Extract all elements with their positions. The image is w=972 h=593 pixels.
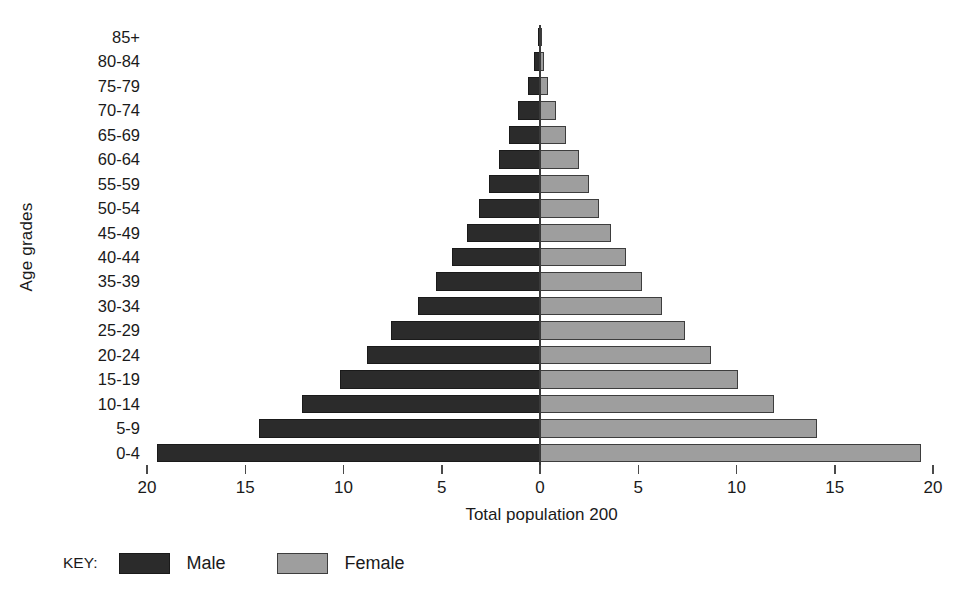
x-tick-label: 15: [805, 478, 865, 498]
y-tick-label: 80-84: [30, 53, 140, 70]
legend-entries: MaleFemale: [119, 553, 456, 574]
bar-male-15-19: [340, 370, 540, 389]
bar-row: [147, 126, 936, 145]
y-tick-label: 70-74: [30, 102, 140, 119]
bar-female-55-59: [540, 175, 589, 194]
bar-male-30-34: [418, 297, 540, 316]
legend-title: KEY:: [63, 554, 97, 572]
x-tick-label: 5: [412, 478, 472, 498]
y-tick-label: 85+: [30, 29, 140, 46]
bar-row: [147, 395, 936, 414]
bar-female-25-29: [540, 321, 685, 340]
legend-label: Male: [186, 553, 225, 574]
bar-male-50-54: [479, 199, 540, 218]
x-tick-mark: [736, 465, 738, 474]
bar-female-5-9: [540, 419, 817, 438]
x-axis-title: Total population 200: [147, 505, 936, 525]
legend-swatch-female: [277, 553, 328, 574]
bar-female-10-14: [540, 395, 774, 414]
x-tick-label: 20: [117, 478, 177, 498]
y-tick-label: 5-9: [30, 420, 140, 437]
x-tick-mark: [245, 465, 247, 474]
bar-row: [147, 199, 936, 218]
bar-male-25-29: [391, 321, 540, 340]
legend-entry-female: Female: [277, 553, 404, 574]
bar-male-55-59: [489, 175, 540, 194]
x-tick-label: 5: [608, 478, 668, 498]
y-tick-label: 0-4: [30, 445, 140, 462]
y-tick-label: 55-59: [30, 176, 140, 193]
x-tick-mark: [638, 465, 640, 474]
bar-row: [147, 346, 936, 365]
x-tick-label: 15: [215, 478, 275, 498]
y-axis-tick-labels: 85+80-8475-7970-7465-6960-6455-5950-5445…: [18, 25, 140, 465]
bar-male-40-44: [452, 248, 540, 267]
y-tick-label: 50-54: [30, 200, 140, 217]
population-pyramid-chart: Age grades 85+80-8475-7970-7465-6960-645…: [0, 0, 972, 593]
bar-row: [147, 272, 936, 291]
x-tick-label: 0: [510, 478, 570, 498]
bar-female-15-19: [540, 370, 738, 389]
bar-row: [147, 28, 936, 47]
y-tick-label: 25-29: [30, 322, 140, 339]
bar-row: [147, 321, 936, 340]
bar-row: [147, 248, 936, 267]
bar-female-20-24: [540, 346, 711, 365]
bar-female-60-64: [540, 150, 579, 169]
x-tick-label: 10: [707, 478, 767, 498]
y-tick-label: 10-14: [30, 396, 140, 413]
y-tick-label: 40-44: [30, 249, 140, 266]
bar-male-60-64: [499, 150, 540, 169]
center-axis-line: [539, 25, 541, 465]
legend-label: Female: [344, 553, 404, 574]
bar-female-70-74: [540, 101, 556, 120]
legend: KEY: MaleFemale: [63, 551, 457, 575]
x-tick-mark: [834, 465, 836, 474]
bar-female-0-4: [540, 444, 921, 463]
bar-row: [147, 370, 936, 389]
bar-female-35-39: [540, 272, 642, 291]
y-tick-label: 20-24: [30, 347, 140, 364]
bar-female-30-34: [540, 297, 662, 316]
plot-area: [147, 25, 936, 465]
bar-female-75-79: [540, 77, 548, 96]
legend-entry-male: Male: [119, 553, 225, 574]
y-tick-label: 75-79: [30, 78, 140, 95]
bar-row: [147, 297, 936, 316]
bar-row: [147, 444, 936, 463]
bar-row: [147, 77, 936, 96]
bar-male-20-24: [367, 346, 540, 365]
bar-row: [147, 175, 936, 194]
bar-male-10-14: [302, 395, 540, 414]
y-tick-label: 45-49: [30, 225, 140, 242]
y-tick-label: 65-69: [30, 127, 140, 144]
bar-row: [147, 150, 936, 169]
bar-row: [147, 224, 936, 243]
x-tick-label: 10: [314, 478, 374, 498]
bar-male-75-79: [528, 77, 540, 96]
x-tick-mark: [343, 465, 345, 474]
y-tick-label: 35-39: [30, 273, 140, 290]
legend-swatch-male: [119, 553, 170, 574]
bar-male-5-9: [259, 419, 540, 438]
bar-male-0-4: [157, 444, 540, 463]
bar-female-50-54: [540, 199, 599, 218]
bar-row: [147, 101, 936, 120]
bar-male-65-69: [509, 126, 540, 145]
bar-female-45-49: [540, 224, 611, 243]
x-tick-mark: [441, 465, 443, 474]
y-tick-label: 15-19: [30, 371, 140, 388]
y-tick-label: 30-34: [30, 298, 140, 315]
x-tick-mark: [932, 465, 934, 474]
x-axis-ticks: 201510505101520: [147, 465, 936, 477]
bar-male-45-49: [467, 224, 540, 243]
bar-female-65-69: [540, 126, 566, 145]
bar-male-70-74: [518, 101, 540, 120]
bar-female-40-44: [540, 248, 626, 267]
bar-male-35-39: [436, 272, 540, 291]
y-tick-label: 60-64: [30, 151, 140, 168]
x-tick-mark: [146, 465, 148, 474]
x-tick-mark: [539, 465, 541, 474]
bar-row: [147, 52, 936, 71]
bar-row: [147, 419, 936, 438]
